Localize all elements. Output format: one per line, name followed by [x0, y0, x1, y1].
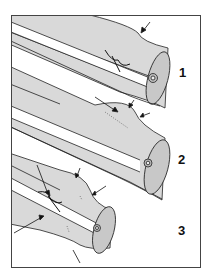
- panel-label-1: 1: [179, 65, 186, 80]
- panel-label-3: 3: [178, 223, 185, 238]
- panel-label-2: 2: [178, 152, 185, 167]
